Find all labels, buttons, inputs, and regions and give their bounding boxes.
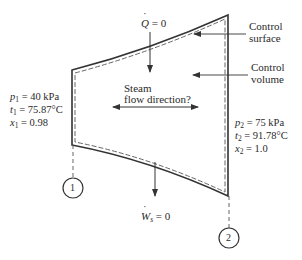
state2-pressure: p2 = 75 kPa (235, 116, 288, 129)
control-volume-label: Control volume (251, 61, 285, 85)
state1-quality-sub: 1 (15, 121, 19, 130)
control-volume-line1: Control (251, 61, 285, 73)
state1-pressure-value: = 40 kPa (22, 91, 59, 102)
state2-temperature-value: = 91.78°C (244, 130, 287, 141)
state2-quality-sub: 2 (240, 147, 244, 156)
work-subscript: s (150, 215, 153, 224)
flow-label-line2: flow direction? (124, 94, 191, 105)
heat-value: = 0 (152, 17, 166, 29)
state1-marker-label: 1 (70, 182, 75, 194)
state2-properties: p2 = 75 kPa t2 = 91.78°C x2 = 1.0 (235, 116, 288, 155)
state2-quality-value: = 1.0 (246, 143, 268, 154)
control-surface-line1: Control (249, 20, 283, 32)
heat-symbol: Q (141, 17, 149, 29)
flow-label: Steam flow direction? (124, 83, 191, 105)
work-symbol: W (141, 210, 150, 222)
state2-temperature: t2 = 91.78°C (235, 129, 288, 142)
state1-properties: p1 = 40 kPa t1 = 75.87°C x1 = 0.98 (10, 90, 63, 129)
state2-quality: x2 = 1.0 (235, 142, 288, 155)
state1-pressure: p1 = 40 kPa (10, 90, 63, 103)
work-value: = 0 (156, 210, 170, 222)
state2-pressure-value: = 75 kPa (247, 117, 284, 128)
heat-label: Q = 0 (141, 17, 166, 29)
state1-temperature-value: = 75.87°C (19, 104, 62, 115)
state1-quality: x1 = 0.98 (10, 116, 63, 129)
control-surface-line2: surface (249, 32, 283, 44)
control-volume-line2: volume (251, 73, 285, 85)
state2-marker-label: 2 (226, 232, 231, 244)
work-label: Ws = 0 (141, 210, 170, 222)
state1-quality-value: = 0.98 (21, 117, 48, 128)
control-surface-label: Control surface (249, 20, 283, 44)
state1-temperature: t1 = 75.87°C (10, 103, 63, 116)
